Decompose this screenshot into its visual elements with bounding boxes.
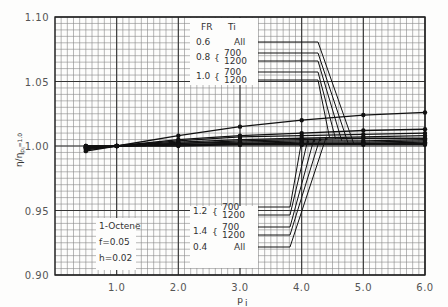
y-axis-label: η/ηpi=1.0 [14,133,26,167]
y-tick-label: 0.95 [25,206,49,217]
legend-fr-value: 0.8 [196,52,211,62]
data-point [238,124,242,128]
leader-line [258,42,354,145]
data-point [423,110,427,114]
brace: { [214,72,220,82]
legend-ti-value: 1200 [224,75,247,85]
y-tick-label: 1.10 [25,12,49,23]
legend-ti-value: All [234,242,245,252]
data-point [176,133,180,137]
y-tick-label: 1.05 [25,77,49,88]
data-point [361,113,365,117]
arrowhead-icon [313,140,315,142]
brace: { [212,227,218,237]
legend-ti-value: All [234,37,245,47]
chart: 1.02.03.04.05.06.00.900.951.001.051.10 F… [0,0,448,307]
arrowhead-icon [307,141,309,143]
data-point [176,144,180,148]
annotation-text: h=0.02 [99,253,132,263]
x-tick-label: 1.0 [108,282,125,293]
legend-ti-value: 1200 [222,230,245,240]
data-point [361,128,365,132]
leader-line [258,80,329,137]
x-axis-label: p [237,295,243,305]
y-tick-label: 0.90 [25,270,49,281]
legend-fr-value: 1.2 [193,206,207,216]
x-tick-label: 3.0 [231,282,248,293]
legend-fr-value: 0.6 [196,37,211,47]
data-point [361,143,365,147]
arrowhead-icon [300,142,302,144]
x-tick-label: 5.0 [355,282,372,293]
y-tick-label: 1.00 [25,141,49,152]
x-tick-label: 2.0 [170,282,187,293]
leader-line [258,53,348,143]
leader-line [258,139,314,227]
annotation-box: 1-Octenef=0.05h=0.02 [96,218,141,270]
x-tick-label: 4.0 [293,282,310,293]
legend-header-fr: FR [201,22,212,32]
data-point [299,118,303,122]
annotation-text: 1-Octene [99,221,141,231]
data-point [423,127,427,131]
legend-ti-value: 1200 [222,210,245,220]
data-point [423,143,427,147]
arrowhead-icon [319,139,321,141]
legend-header-ti: Ti [227,22,236,32]
annotation-text: f=0.05 [99,237,130,247]
legend-fr-value: 0.4 [193,242,208,252]
legend-ti-value: 1200 [224,56,247,66]
data-point [84,144,88,148]
legend-fr-value: 1.4 [193,226,208,236]
brace: { [214,53,220,63]
x-tick-label: 6.0 [416,282,433,293]
brace: { [212,207,218,217]
data-point [238,143,242,147]
data-point [114,144,118,148]
arrowhead-icon [325,138,327,140]
legend-fr-value: 1.0 [196,71,211,81]
x-axis-label-sub: i [245,298,248,307]
